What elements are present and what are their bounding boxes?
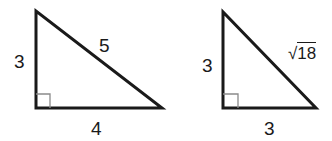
triangle-1-bottom-side-label: 4 [91,119,102,138]
square-root-icon: √ [288,44,297,63]
triangle-2-hypotenuse-label: √18 [288,45,316,62]
radicand: 18 [297,42,316,63]
triangle-2-bottom-side-label: 3 [264,119,275,138]
triangle-1-left-side-label: 3 [14,52,25,71]
triangle-1 [36,11,162,108]
triangle-1-hypotenuse-label: 5 [99,36,110,55]
triangle-1-shape [36,11,162,108]
triangle-2-left-side-label: 3 [202,56,213,75]
right-angle-marker-2 [223,94,238,108]
diagram-canvas [0,0,332,141]
right-angle-marker-1 [36,94,50,108]
